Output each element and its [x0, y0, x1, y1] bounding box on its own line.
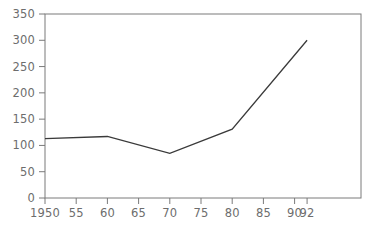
y-tick-label: 50	[20, 165, 35, 179]
y-tick-label: 0	[27, 191, 35, 205]
x-tick-label: 80	[225, 206, 240, 220]
y-tick-label: 150	[12, 112, 35, 126]
x-tick-label: 70	[162, 206, 177, 220]
chart-canvas: 050100150200250300350 195055606570758085…	[0, 0, 383, 229]
y-tick-label: 300	[12, 33, 35, 47]
y-tick-label: 200	[12, 86, 35, 100]
x-tick-label: 1950	[30, 206, 60, 220]
plot-area-frame	[45, 14, 361, 198]
x-tick-label: 92	[300, 206, 315, 220]
y-tick-label: 250	[12, 60, 35, 74]
x-tick-label: 85	[256, 206, 271, 220]
x-tick-label: 75	[193, 206, 208, 220]
y-tick-label: 350	[12, 7, 35, 21]
line-chart: 050100150200250300350 195055606570758085…	[0, 0, 383, 229]
x-tick-label: 55	[69, 206, 84, 220]
x-tick-label: 65	[131, 206, 146, 220]
y-tick-label: 100	[12, 138, 35, 152]
x-tick-label: 60	[100, 206, 115, 220]
